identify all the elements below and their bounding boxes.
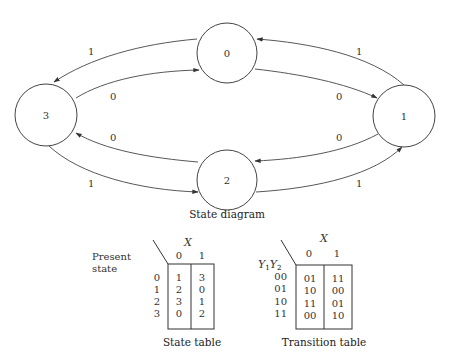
edge-3-to-0: [76, 70, 199, 98]
table-corner-diagonal: [153, 240, 168, 264]
transition-cell: 00: [304, 310, 317, 321]
state-label-1: 1: [401, 111, 407, 122]
transition-table-caption: Transition table: [282, 336, 367, 348]
state-cell: 1: [199, 296, 205, 307]
state-node-0: 0: [197, 23, 257, 83]
table-corner-diagonal: [281, 240, 296, 265]
edge-label-0-to-1: 0: [336, 91, 342, 102]
state-row-label: 0: [154, 272, 160, 283]
y1y2-header: Y1Y2: [258, 258, 281, 272]
state-row-label: 1: [154, 284, 160, 295]
state-cell: 0: [199, 284, 205, 295]
state-cell: 3: [199, 272, 205, 283]
transition-table: X 0 1 Y1Y2 00 01 11 01 10 00 10 11 01 11…: [258, 232, 366, 348]
edge-0-to-1: [255, 69, 377, 98]
state-diagram: 1 0 1 0 0 1 0 1 0 1 2 3 State diagram: [15, 23, 435, 220]
state-table-caption: State table: [163, 336, 221, 348]
transition-row-label: 01: [274, 283, 287, 294]
transition-cell: 10: [332, 310, 345, 321]
edge-label-2-to-1: 1: [356, 178, 362, 189]
present-state-label-line1: Present: [92, 251, 131, 262]
present-state-label-line2: state: [92, 263, 117, 274]
state-label-2: 2: [224, 175, 230, 186]
edge-1-to-2: [255, 134, 378, 161]
transition-cell: 10: [304, 285, 317, 296]
state-node-1: 1: [373, 85, 435, 147]
edge-label-3-to-0: 0: [110, 91, 116, 102]
state-label-3: 3: [43, 110, 49, 121]
transition-cell: 00: [332, 285, 345, 296]
transition-row-label: 10: [274, 296, 287, 307]
edge-1-to-0: [257, 39, 404, 85]
transition-row-label: 11: [274, 308, 287, 319]
edge-2-to-1: [256, 147, 402, 192]
state-node-2: 2: [197, 150, 257, 210]
state-node-3: 3: [15, 84, 77, 146]
transition-cell: 01: [332, 298, 345, 309]
edge-3-to-2: [49, 146, 198, 192]
state-cell: 2: [176, 284, 182, 295]
state-cell: 1: [176, 272, 182, 283]
transition-table-col-1: 1: [334, 248, 340, 259]
state-diagram-caption: State diagram: [189, 208, 265, 220]
edge-label-1-to-0: 1: [356, 46, 362, 57]
state-row-label: 2: [154, 296, 160, 307]
transition-cell: 11: [332, 273, 345, 284]
state-cell: 2: [199, 308, 205, 319]
edge-label-2-to-3: 0: [110, 132, 116, 143]
transition-cell: 01: [304, 273, 317, 284]
state-table-col-1: 1: [199, 250, 205, 261]
state-cell: 0: [176, 308, 182, 319]
state-row-label: 3: [154, 308, 160, 319]
state-table: X 0 1 Present state 0 1 3 1 2 0 2 3 1 3 …: [92, 236, 221, 348]
edge-label-3-to-2: 1: [88, 178, 94, 189]
edge-label-0-to-3: 1: [88, 46, 94, 57]
state-table-column-header: X: [183, 236, 193, 249]
transition-table-col-0: 0: [306, 248, 312, 259]
figure-canvas: 1 0 1 0 0 1 0 1 0 1 2 3 State diagram X …: [0, 0, 455, 358]
transition-row-label: 00: [274, 271, 287, 282]
edge-0-to-3: [54, 39, 197, 82]
state-cell: 3: [176, 296, 182, 307]
transition-cell: 11: [304, 298, 317, 309]
state-table-col-0: 0: [176, 250, 182, 261]
state-label-0: 0: [224, 48, 230, 59]
edge-label-1-to-2: 0: [336, 132, 342, 143]
transition-table-column-header: X: [319, 232, 329, 245]
edge-2-to-3: [76, 133, 198, 162]
